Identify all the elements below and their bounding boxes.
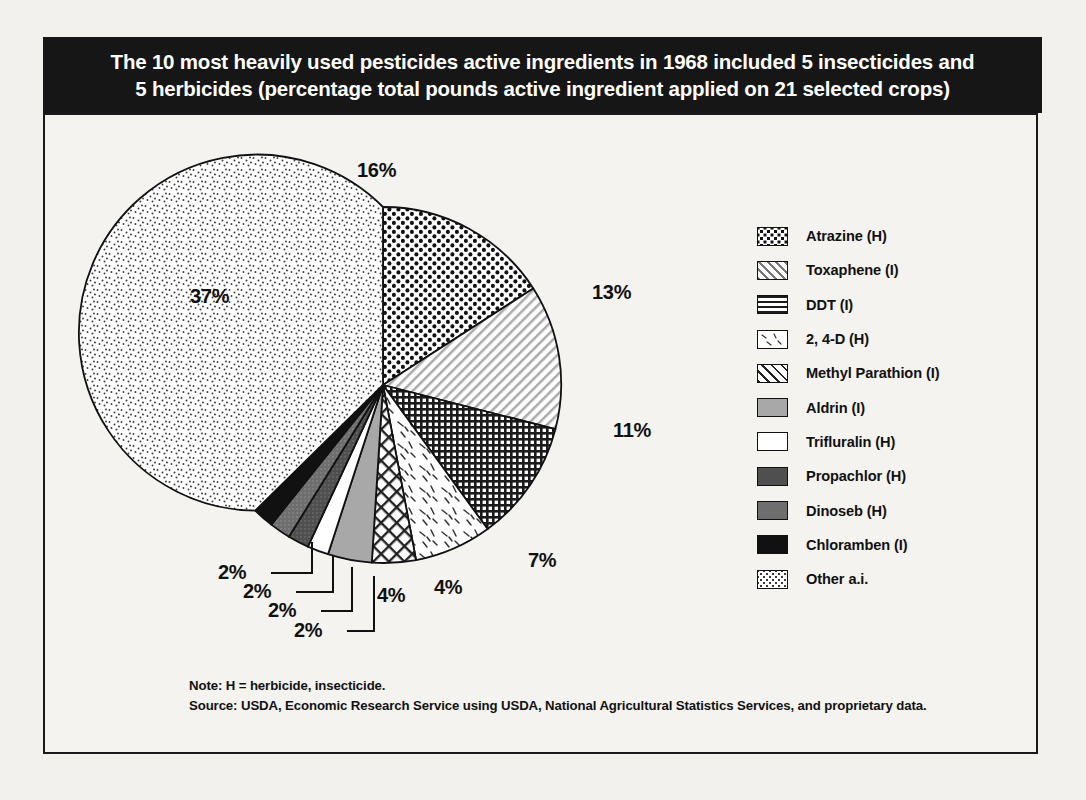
legend-item-ddt[interactable]: DDT (I) [757, 288, 1027, 322]
legend-label-24d: 2, 4-D (H) [806, 331, 869, 347]
legend-swatch-fine-stipple-icon [757, 570, 788, 589]
legend-item-aldrin[interactable]: Aldrin (I) [757, 390, 1027, 424]
footnote-note: Note: H = herbicide, insecticide. [189, 676, 927, 696]
legend-label-atrazine: Atrazine (H) [806, 228, 887, 244]
chart-legend: Atrazine (H) Toxaphene (I) DDT (I) [757, 219, 1027, 596]
legend-item-other[interactable]: Other a.i. [757, 562, 1027, 596]
legend-item-24d[interactable]: 2, 4-D (H) [757, 322, 1027, 356]
chart-page: The 10 most heavily used pesticides acti… [0, 0, 1086, 800]
title-line-1: The 10 most heavily used pesticides acti… [111, 50, 975, 73]
pct-label-methyl-parathion: 4% [434, 576, 462, 599]
title-line-2: 5 herbicides (percentage total pounds ac… [135, 77, 950, 100]
legend-swatch-diagonal-crosshatch-icon [757, 364, 788, 383]
legend-label-propachlor: Propachlor (H) [806, 468, 906, 484]
legend-item-trifluralin[interactable]: Trifluralin (H) [757, 425, 1027, 459]
legend-swatch-dark-gray-icon [757, 467, 788, 486]
pct-label-toxaphene: 13% [592, 281, 631, 304]
legend-label-chloramben: Chloramben (I) [806, 537, 908, 553]
legend-swatch-medium-dark-gray-icon [757, 501, 788, 520]
legend-swatch-solid-gray-icon [757, 398, 788, 417]
pct-label-propachlor: 2% [268, 599, 296, 622]
legend-swatch-dense-dots-icon [757, 227, 788, 246]
pct-label-trifluralin: 2% [294, 619, 322, 642]
legend-label-methyl-parathion: Methyl Parathion (I) [806, 365, 939, 381]
legend-swatch-white-icon [757, 432, 788, 451]
chart-footnotes: Note: H = herbicide, insecticide. Source… [189, 676, 927, 717]
legend-item-methyl-parathion[interactable]: Methyl Parathion (I) [757, 356, 1027, 390]
legend-label-aldrin: Aldrin (I) [806, 400, 865, 416]
legend-label-toxaphene: Toxaphene (I) [806, 262, 898, 278]
page-title: The 10 most heavily used pesticides acti… [63, 48, 1023, 102]
legend-swatch-cross-grid-icon [757, 295, 788, 314]
pct-label-other: 37% [190, 285, 229, 308]
pct-label-ddt: 11% [613, 419, 651, 442]
legend-item-dinoseb[interactable]: Dinoseb (H) [757, 493, 1027, 527]
footnote-source: Source: USDA, Economic Research Service … [189, 696, 927, 716]
legend-swatch-black-icon [757, 535, 788, 554]
legend-label-ddt: DDT (I) [806, 297, 853, 313]
legend-label-other: Other a.i. [806, 571, 868, 587]
pct-label-aldrin: 4% [377, 584, 405, 607]
legend-item-toxaphene[interactable]: Toxaphene (I) [757, 253, 1027, 287]
pct-label-atrazine: 16% [357, 159, 396, 182]
legend-item-chloramben[interactable]: Chloramben (I) [757, 528, 1027, 562]
legend-item-atrazine[interactable]: Atrazine (H) [757, 219, 1027, 253]
legend-swatch-diagonal-hatch-icon [757, 261, 788, 280]
pct-label-24d: 7% [528, 549, 556, 572]
chart-title-banner: The 10 most heavily used pesticides acti… [43, 37, 1042, 113]
legend-label-trifluralin: Trifluralin (H) [806, 434, 895, 450]
legend-item-propachlor[interactable]: Propachlor (H) [757, 459, 1027, 493]
legend-swatch-sparse-dashes-icon [757, 330, 788, 349]
legend-label-dinoseb: Dinoseb (H) [806, 503, 887, 519]
